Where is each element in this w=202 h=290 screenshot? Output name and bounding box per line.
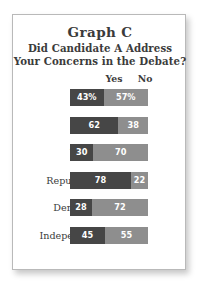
title-block: Graph C Did Candidate A Address Your Con…	[13, 25, 187, 67]
subtitle-line-1: Did Candidate A Address	[13, 42, 187, 55]
screenshot-root: Graph C Did Candidate A Address Your Con…	[0, 0, 202, 290]
bar-segment-yes: 62	[70, 117, 118, 134]
stacked-bar: 7822	[70, 172, 148, 189]
bar-segment-no: 55	[105, 227, 148, 244]
stacked-bar: 3070	[70, 144, 148, 161]
chart-row: Women3070	[13, 144, 187, 161]
chart-row: Independents4555	[13, 227, 187, 244]
bar-segment-yes: 28	[70, 199, 92, 216]
stacked-bar: 43%57%	[70, 89, 148, 106]
bar-segment-yes: 43%	[70, 89, 104, 106]
legend-label-yes: Yes	[102, 73, 126, 84]
bar-segment-yes: 45	[70, 227, 105, 244]
bar-segment-no: 72	[92, 199, 148, 216]
bar-segment-no: 22	[131, 172, 148, 189]
stacked-bar: 4555	[70, 227, 148, 244]
chart-row: Men6238	[13, 117, 187, 134]
subtitle-line-2: Your Concerns in the Debate?	[13, 55, 187, 68]
graph-card: Graph C Did Candidate A Address Your Con…	[12, 14, 186, 270]
chart-legend: Yes No	[13, 73, 187, 87]
bar-segment-no: 38	[118, 117, 148, 134]
legend-label-no: No	[135, 73, 155, 84]
stacked-bar: 6238	[70, 117, 148, 134]
chart-row: Republicans7822	[13, 172, 187, 189]
bar-segment-no: 57%	[104, 89, 148, 106]
chart-row: Democrats2872	[13, 199, 187, 216]
bar-segment-yes: 30	[70, 144, 93, 161]
chart-plot-area: Yes No Total43%57%Men6238Women3070Republ…	[13, 73, 187, 269]
stacked-bar: 2872	[70, 199, 148, 216]
bar-segment-yes: 78	[70, 172, 131, 189]
page-title: Graph C	[13, 25, 187, 40]
bar-segment-no: 70	[93, 144, 148, 161]
chart-row: Total43%57%	[13, 89, 187, 106]
